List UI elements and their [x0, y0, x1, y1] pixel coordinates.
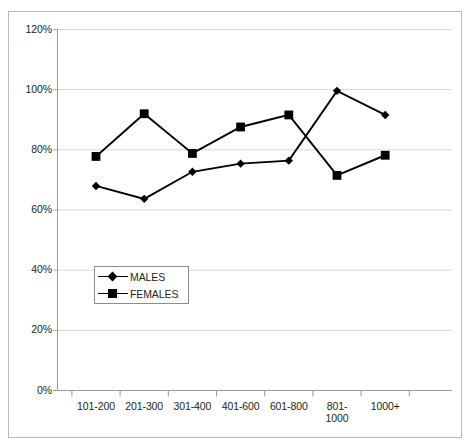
marker-females-5: [333, 171, 342, 180]
marker-females-2: [188, 149, 197, 158]
series-lines: [96, 91, 385, 199]
x-tick-label-5-line-1: 1000: [310, 412, 364, 424]
marker-males-0: [92, 182, 100, 190]
x-tick-label-6-line-0: 1000+: [358, 400, 412, 412]
x-tick-label-5-line-0: 801-: [310, 400, 364, 412]
x-tick-label-4-line-0: 601-800: [262, 400, 316, 412]
y-tick-label-0: 0%: [8, 385, 52, 396]
x-tick-label-4: 601-800: [262, 400, 316, 412]
x-tick-label-6: 1000+: [358, 400, 412, 412]
y-tick-label-20: 20%: [8, 324, 52, 335]
marker-males-6: [381, 111, 389, 119]
y-axis-ticks: [54, 30, 58, 391]
x-tick-label-2-line-0: 301-400: [165, 400, 219, 412]
y-tick-label-40: 40%: [8, 264, 52, 275]
marker-males-2: [188, 168, 196, 176]
chart-plot-area: [0, 0, 471, 447]
x-tick-label-2: 301-400: [165, 400, 219, 412]
x-tick-label-0: 101-200: [69, 400, 123, 412]
x-tick-label-1: 201-300: [117, 400, 171, 412]
marker-females-0: [92, 152, 101, 161]
x-tick-label-0-line-0: 101-200: [69, 400, 123, 412]
chart-container: 0%20%40%60%80%100%120% 101-200201-300301…: [0, 0, 471, 447]
legend-square-marker-icon: [98, 287, 128, 301]
legend-label-males: MALES: [128, 271, 165, 283]
marker-males-1: [140, 195, 148, 203]
marker-females-4: [284, 111, 293, 120]
x-axis-ticks: [72, 391, 409, 397]
x-tick-label-3-line-0: 401-600: [214, 400, 268, 412]
marker-females-6: [381, 151, 390, 160]
x-tick-label-3: 401-600: [214, 400, 268, 412]
marker-females-1: [140, 109, 149, 118]
y-tick-label-80: 80%: [8, 144, 52, 155]
series-markers: [92, 87, 390, 203]
x-tick-label-5: 801-1000: [310, 400, 364, 424]
legend-diamond-marker-icon: [98, 270, 128, 284]
legend-label-females: FEMALES: [128, 288, 178, 300]
y-tick-label-60: 60%: [8, 204, 52, 215]
series-line-males: [96, 91, 385, 199]
x-tick-label-1-line-0: 201-300: [117, 400, 171, 412]
marker-females-3: [236, 123, 245, 132]
y-tick-label-100: 100%: [8, 84, 52, 95]
y-tick-label-120: 120%: [8, 24, 52, 35]
marker-males-3: [236, 159, 244, 167]
legend-item-females[interactable]: FEMALES: [98, 285, 178, 302]
chart-legend: MALES FEMALES: [94, 266, 189, 304]
legend-item-males[interactable]: MALES: [98, 268, 165, 285]
